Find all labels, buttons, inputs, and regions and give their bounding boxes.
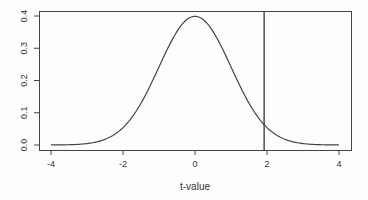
- x-tick-label: 2: [264, 159, 269, 169]
- y-tick-label: 0.4: [19, 10, 29, 23]
- y-axis: 0.00.10.20.30.4: [19, 10, 40, 152]
- y-tick-label: 0.2: [19, 74, 29, 87]
- t-distribution-chart: 0.00.10.20.30.4 -4-2024 t-value: [0, 0, 368, 200]
- x-tick-label: -4: [47, 159, 55, 169]
- y-tick-label: 0.1: [19, 106, 29, 119]
- y-tick-label: 0.0: [19, 139, 29, 152]
- x-tick-label: 0: [192, 159, 197, 169]
- density-curve: [51, 16, 339, 145]
- x-tick-label: 4: [336, 159, 341, 169]
- plot-box: [40, 12, 352, 151]
- x-tick-label: -2: [119, 159, 127, 169]
- x-axis-label: t-value: [180, 181, 210, 192]
- y-tick-label: 0.3: [19, 42, 29, 55]
- x-axis: -4-2024: [47, 151, 342, 170]
